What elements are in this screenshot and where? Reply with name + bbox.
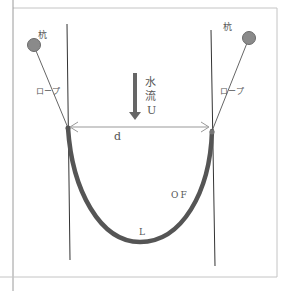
attach-node-right bbox=[210, 130, 215, 135]
flow-label-1: 水 bbox=[145, 76, 156, 89]
fence-label: OF bbox=[171, 190, 189, 200]
attach-node-left bbox=[66, 126, 71, 131]
diagram-canvas: 杭 杭 ロープ ロープ 水 流 U d OF L bbox=[0, 0, 291, 291]
pile-left-label: 杭 bbox=[38, 29, 47, 40]
length-label: L bbox=[139, 227, 145, 237]
distance-label: d bbox=[114, 130, 121, 143]
fence-net-curve bbox=[68, 128, 212, 242]
rope-right-label: ロープ bbox=[220, 87, 244, 96]
flow-label-3: U bbox=[147, 104, 156, 117]
flow-label-2: 流 bbox=[145, 89, 156, 103]
pile-left-icon bbox=[28, 39, 41, 52]
pile-right-label: 杭 bbox=[223, 21, 232, 32]
rope-left-label: ロープ bbox=[36, 87, 60, 96]
pile-right-icon bbox=[243, 32, 256, 45]
flow-arrow-head bbox=[129, 112, 141, 120]
flow-arrow-shaft bbox=[133, 73, 137, 113]
rope-right bbox=[212, 38, 249, 131]
